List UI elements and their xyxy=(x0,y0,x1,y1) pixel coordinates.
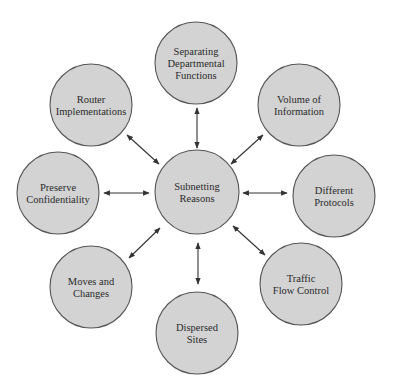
subnetting-reasons-diagram: SubnettingReasonsSeparatingDepartmentalF… xyxy=(0,0,394,387)
node-label: Preserve xyxy=(40,182,76,193)
node-label: Dispersed xyxy=(176,322,219,333)
node-label: Changes xyxy=(73,288,109,299)
node-label: Separating xyxy=(174,46,220,57)
arrow-router xyxy=(127,135,159,164)
node-label: Subnetting xyxy=(174,181,220,192)
node-moves-and-changes: Moves andChanges xyxy=(50,246,132,328)
node-different-protocols: DifferentProtocols xyxy=(293,155,375,237)
arrow-volume xyxy=(231,135,263,164)
arrow-traffic xyxy=(233,226,265,255)
node-traffic-flow-control: TrafficFlow Control xyxy=(260,243,342,325)
node-label: Protocols xyxy=(314,197,354,208)
arrow-moves xyxy=(129,228,160,258)
node-volume-of-information: Volume ofInformation xyxy=(258,64,340,146)
node-label: Departmental xyxy=(167,58,224,69)
node-label: Moves and xyxy=(68,276,115,287)
node-label: Reasons xyxy=(180,193,215,204)
node-subnetting-reasons: SubnettingReasons xyxy=(155,150,239,234)
node-label: Volume of xyxy=(277,94,321,105)
node-label: Flow Control xyxy=(273,285,329,296)
node-label: Confidentiality xyxy=(26,194,90,205)
node-dispersed-sites: DispersedSites xyxy=(156,292,238,374)
node-separating-departmental-functions: SeparatingDepartmentalFunctions xyxy=(155,22,237,104)
node-label: Implementations xyxy=(56,106,127,117)
node-label: Functions xyxy=(175,70,216,81)
node-router-implementations: RouterImplementations xyxy=(50,64,132,146)
node-label: Traffic xyxy=(287,273,316,284)
node-label: Router xyxy=(77,94,106,105)
node-label: Information xyxy=(274,106,325,117)
node-label: Different xyxy=(315,185,353,196)
node-label: Sites xyxy=(187,334,207,345)
node-preserve-confidentiality: PreserveConfidentiality xyxy=(17,152,99,234)
